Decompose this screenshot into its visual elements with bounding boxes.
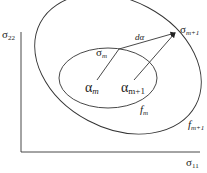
inner-yield-surface (59, 48, 157, 108)
d-alpha-label: dα (135, 32, 145, 42)
y-axis-label: σ22 (2, 28, 15, 42)
x-axis-label: σ11 (186, 156, 199, 170)
alpha-m1-label: αm+1 (121, 80, 145, 96)
outer-yield-surface (10, 0, 207, 162)
d-alpha-arrow (119, 33, 175, 49)
yield-surface-diagram: σ22 σ11 dα σm+1 σm αm αm+1 fm fm+1 (0, 0, 207, 173)
sigma-m1-label: σm+1 (180, 23, 199, 37)
alpha-m-label: αm (85, 80, 99, 96)
outer-surface-label: fm+1 (188, 118, 204, 132)
inner-surface-label: fm (140, 103, 148, 117)
